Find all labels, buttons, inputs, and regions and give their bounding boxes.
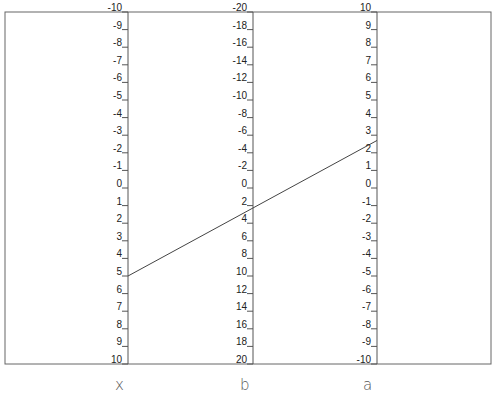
tick-label-b: 6: [241, 232, 247, 242]
tick-label-x: 6: [116, 285, 122, 295]
tick-label-a: -9: [362, 337, 371, 347]
tick-label-a: -6: [362, 285, 371, 295]
tick-label-b: 12: [236, 285, 247, 295]
tick-label-a: 3: [365, 126, 371, 136]
tick-label-x: -7: [113, 56, 122, 66]
tick-label-x: 0: [116, 179, 122, 189]
tick-label-b: -14: [233, 56, 247, 66]
tick-label-x: -4: [113, 109, 122, 119]
tick-label-a: 7: [365, 56, 371, 66]
tick-label-a: 4: [365, 109, 371, 119]
tick-label-a: 10: [360, 3, 371, 13]
tick-marks: [122, 12, 377, 364]
tick-label-x: 8: [116, 320, 122, 330]
tick-label-a: 6: [365, 73, 371, 83]
tick-label-x: -3: [113, 126, 122, 136]
tick-label-b: -4: [238, 144, 247, 154]
tick-label-b: 14: [236, 302, 247, 312]
tick-label-x: 5: [116, 267, 122, 277]
tick-label-b: 8: [241, 249, 247, 259]
tick-label-a: -10: [357, 355, 371, 365]
tick-label-x: 4: [116, 249, 122, 259]
tick-label-b: 18: [236, 337, 247, 347]
tick-label-a: -4: [362, 249, 371, 259]
tick-label-b: 2: [241, 197, 247, 207]
tick-label-b: 16: [236, 320, 247, 330]
tick-label-b: 4: [241, 214, 247, 224]
tick-label-x: 2: [116, 214, 122, 224]
tick-label-b: -16: [233, 38, 247, 48]
tick-label-a: 2: [365, 144, 371, 154]
tick-label-b: 20: [236, 355, 247, 365]
tick-label-a: -3: [362, 232, 371, 242]
tick-label-a: 0: [365, 179, 371, 189]
tick-label-x: -10: [108, 3, 122, 13]
tick-label-x: -8: [113, 38, 122, 48]
tick-label-a: 9: [365, 21, 371, 31]
tick-label-x: 9: [116, 337, 122, 347]
axis-x-title: x: [115, 376, 124, 394]
tick-label-b: -2: [238, 161, 247, 171]
tick-label-b: -10: [233, 91, 247, 101]
tick-label-x: 3: [116, 232, 122, 242]
tick-label-x: 1: [116, 197, 122, 207]
tick-label-a: 1: [365, 161, 371, 171]
tick-label-x: -2: [113, 144, 122, 154]
tick-label-x: -1: [113, 161, 122, 171]
tick-label-a: 8: [365, 38, 371, 48]
tick-label-x: 10: [111, 355, 122, 365]
tick-label-a: -1: [362, 197, 371, 207]
tick-label-b: -8: [238, 109, 247, 119]
tick-label-a: -5: [362, 267, 371, 277]
axis-b-title: b: [240, 376, 250, 394]
tick-label-b: -18: [233, 21, 247, 31]
axis-a-title: a: [363, 376, 372, 394]
tick-label-b: -6: [238, 126, 247, 136]
nomogram-canvas: [0, 0, 496, 398]
tick-label-a: 5: [365, 91, 371, 101]
tick-label-a: -7: [362, 302, 371, 312]
nomogram: -10-9-8-7-6-5-4-3-2-1012345678910-20-18-…: [0, 0, 496, 398]
tick-label-a: -2: [362, 214, 371, 224]
tick-label-b: 0: [241, 179, 247, 189]
tick-label-x: -6: [113, 73, 122, 83]
tick-label-b: -20: [233, 3, 247, 13]
tick-label-x: 7: [116, 302, 122, 312]
tick-label-b: 10: [236, 267, 247, 277]
tick-label-a: -8: [362, 320, 371, 330]
tick-label-b: -12: [233, 73, 247, 83]
tick-label-x: -9: [113, 21, 122, 31]
tick-label-x: -5: [113, 91, 122, 101]
